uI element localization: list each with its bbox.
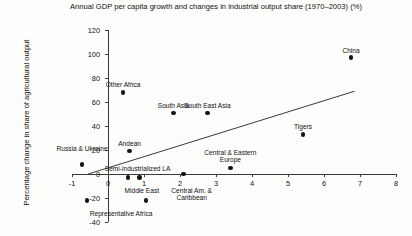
data-point-marker bbox=[228, 166, 233, 171]
data-point-marker bbox=[301, 132, 306, 137]
data-point-label: China bbox=[342, 47, 359, 54]
data-point-label: Representative Africa bbox=[90, 210, 153, 217]
data-point-label: Russia & Ukraine bbox=[52, 145, 112, 152]
data-point-marker bbox=[80, 162, 85, 167]
data-point-label: South East Asia bbox=[184, 102, 231, 109]
data-point-marker bbox=[126, 175, 131, 180]
scatter-chart: Annual GDP per capita growth and changes… bbox=[0, 0, 412, 236]
data-point-marker bbox=[171, 111, 176, 116]
data-point-marker bbox=[205, 111, 210, 116]
data-point-label: Middle East bbox=[125, 187, 159, 194]
data-point-marker bbox=[349, 55, 354, 60]
data-point-label: Central Am. & Caribbean bbox=[162, 187, 222, 202]
data-point-marker bbox=[137, 175, 142, 180]
data-point-label: Other Africa bbox=[106, 81, 141, 88]
data-point-marker bbox=[85, 198, 90, 203]
data-point-label: Semi-industrialized LA bbox=[105, 165, 171, 172]
data-point-label: Tigers bbox=[294, 123, 312, 130]
data-point-label: Andean bbox=[118, 140, 141, 147]
data-point-marker bbox=[121, 90, 126, 95]
data-point-marker bbox=[181, 172, 186, 177]
data-point-label: Central & Eastern Europe bbox=[200, 149, 260, 164]
